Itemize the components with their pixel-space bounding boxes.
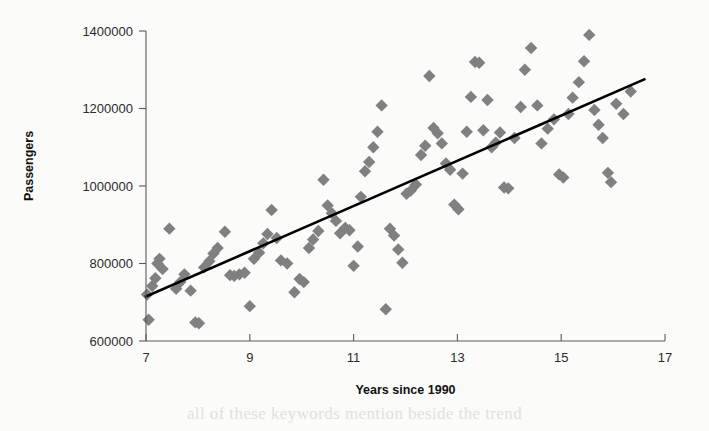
data-point-marker (597, 132, 609, 144)
data-point-marker (317, 174, 329, 186)
data-point-marker (184, 284, 196, 296)
data-point-marker (163, 222, 175, 234)
chart-canvas: 7911131517600000800000100000012000001400… (0, 0, 709, 431)
data-point-marker (367, 141, 379, 153)
data-point-marker (423, 70, 435, 82)
data-point-marker (288, 286, 300, 298)
data-point-marker (566, 91, 578, 103)
data-point-marker (477, 124, 489, 136)
data-point-marker (352, 240, 364, 252)
data-point-marker (244, 300, 256, 312)
data-point-marker (142, 313, 154, 325)
data-point-marker (465, 91, 477, 103)
data-point-marker (573, 76, 585, 88)
data-point-marker (396, 257, 408, 269)
x-tick-label: 15 (554, 350, 568, 365)
data-point-marker (515, 101, 527, 113)
x-axis-title: Years since 1990 (355, 383, 455, 397)
data-point-group (141, 29, 637, 330)
data-point-marker (583, 29, 595, 41)
y-tick-label: 1400000 (82, 24, 133, 39)
data-point-marker (617, 108, 629, 120)
data-point-marker (592, 119, 604, 131)
data-point-marker (347, 260, 359, 272)
data-point-marker (461, 126, 473, 138)
data-point-marker (610, 98, 622, 110)
data-point-marker (219, 226, 231, 238)
trend-line (146, 79, 644, 296)
y-tick-label: 600000 (90, 334, 133, 349)
data-point-marker (375, 99, 387, 111)
x-tick-label: 13 (450, 350, 464, 365)
trend-line-group (146, 79, 644, 296)
y-tick-label: 1200000 (82, 101, 133, 116)
x-tick-label: 11 (347, 350, 361, 365)
data-point-marker (588, 104, 600, 116)
x-tick-label: 17 (658, 350, 672, 365)
data-point-marker (531, 99, 543, 111)
data-point-marker (371, 126, 383, 138)
data-point-marker (481, 94, 493, 106)
data-point-marker (535, 137, 547, 149)
data-point-marker (525, 42, 537, 54)
data-point-marker (265, 204, 277, 216)
y-tick-label: 1000000 (82, 179, 133, 194)
x-tick-label: 9 (246, 350, 253, 365)
y-tick-label: 800000 (90, 256, 133, 271)
data-point-marker (392, 243, 404, 255)
data-point-marker (519, 64, 531, 76)
scatter-chart-figure: 7911131517600000800000100000012000001400… (0, 0, 709, 431)
data-point-marker (578, 55, 590, 67)
x-tick-label: 7 (142, 350, 149, 365)
data-point-marker (456, 167, 468, 179)
y-axis-title: Passengers (22, 131, 36, 201)
data-point-marker (380, 303, 392, 315)
